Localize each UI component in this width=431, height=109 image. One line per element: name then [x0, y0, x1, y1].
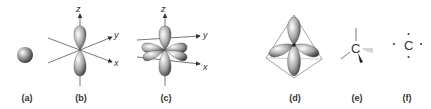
panel-label-b: (b): [75, 93, 87, 103]
p-orbital: z y x: [48, 4, 119, 86]
y-axis-label: y: [202, 30, 208, 40]
z-axis-label: z: [75, 4, 81, 14]
panel-label-a: (a): [22, 93, 33, 103]
x-axis-label: x: [113, 58, 119, 68]
x-axis-label: x: [202, 62, 208, 72]
lewis-dot-carbon: C: [393, 33, 422, 58]
panel-label-e: (e): [352, 93, 363, 103]
tetrahedral-carbon: C: [341, 28, 372, 63]
z-axis-label: z: [160, 4, 166, 14]
carbon-atom-label: C: [404, 38, 413, 53]
y-axis-label: y: [113, 30, 119, 40]
three-p-orbitals: z y x: [137, 4, 208, 86]
panel-label-d: (d): [289, 93, 301, 103]
sp3-hybrid-orbitals: [266, 15, 322, 78]
panel-label-c: (c): [161, 93, 172, 103]
s-orbital: [17, 47, 33, 63]
orbital-diagram: z y x z y x: [0, 0, 431, 109]
carbon-atom-label: C: [351, 41, 360, 56]
panel-label-f: (f): [403, 93, 412, 103]
